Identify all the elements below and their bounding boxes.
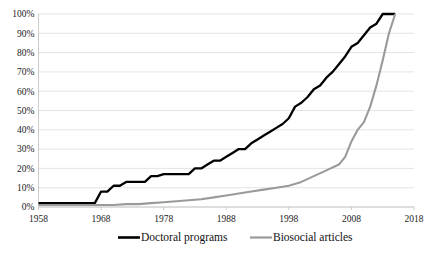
x-axis-labels: 1958196819781988199820082018 [29, 207, 424, 224]
chart-container: 0%10%20%30%40%50%60%70%80%90%100% 195819… [0, 0, 426, 260]
x-axis-tick-label: 1988 [217, 214, 236, 224]
x-axis-tick-label: 1978 [154, 214, 173, 224]
x-axis-tick-label: 1958 [29, 214, 48, 224]
x-axis-tick-label: 1998 [279, 214, 298, 224]
y-axis-tick-label: 80% [17, 48, 35, 58]
x-axis-tick-label: 2008 [342, 214, 361, 224]
y-axis-tick-label: 40% [17, 125, 35, 135]
series-line-doctoral-programs [39, 14, 396, 203]
y-axis-tick-label: 0% [22, 202, 35, 212]
x-axis-tick-label: 2018 [405, 214, 424, 224]
y-axis-tick-label: 50% [17, 106, 35, 116]
x-axis-tick-label: 1968 [92, 214, 111, 224]
series-line-biosocial-articles [39, 14, 396, 205]
data-series [39, 14, 396, 205]
y-axis-tick-label: 60% [17, 87, 35, 97]
y-axis-tick-label: 20% [17, 164, 35, 174]
line-chart: 0%10%20%30%40%50%60%70%80%90%100% 195819… [0, 0, 426, 260]
y-axis-tick-label: 100% [12, 9, 34, 19]
y-axis-tick-label: 90% [17, 29, 35, 39]
chart-legend: Doctoral programsBiosocial articles [118, 231, 353, 244]
legend-label: Doctoral programs [141, 231, 228, 244]
y-axis-labels: 0%10%20%30%40%50%60%70%80%90%100% [12, 9, 34, 212]
legend-label: Biosocial articles [273, 231, 353, 243]
y-axis-tick-label: 10% [17, 183, 35, 193]
y-axis-tick-label: 30% [17, 144, 35, 154]
y-axis-tick-label: 70% [17, 67, 35, 77]
